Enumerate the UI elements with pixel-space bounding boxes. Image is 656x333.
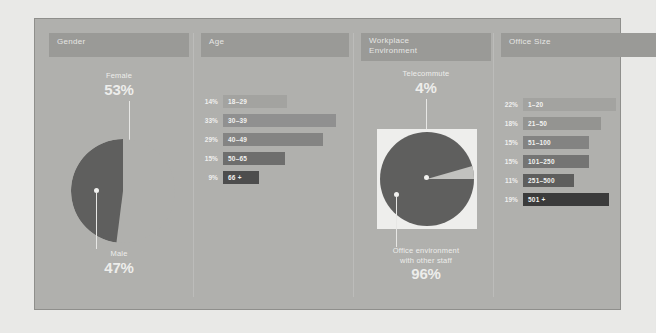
office-size-label-5: 501 + [528, 196, 545, 203]
table-row: 33% 30–39 [201, 114, 349, 127]
age-label-1: 30–39 [228, 117, 247, 124]
section-title-age: Age [209, 37, 349, 47]
section-workplace-environment: Workplace Environment Telecommute 4% [361, 33, 491, 299]
gender-male-value: 47% [49, 259, 189, 276]
age-bar-4: 66 + [223, 171, 259, 184]
gender-male-label: Male [49, 249, 189, 259]
section-header-gender: Gender [49, 33, 189, 57]
gender-male-leader-line [96, 192, 97, 249]
office-size-bar-5: 501 + [523, 193, 609, 206]
age-label-0: 18–29 [228, 98, 247, 105]
table-row: 18% 21–50 [501, 117, 656, 130]
section-header-workplace: Workplace Environment [361, 33, 491, 61]
gender-female-callout: Female 53% [49, 71, 189, 98]
age-pct-1: 33% [201, 117, 223, 124]
gender-female-value: 53% [49, 81, 189, 98]
office-size-bar-0: 1–20 [523, 98, 616, 111]
office-size-pct-4: 11% [501, 177, 523, 184]
section-header-age: Age [201, 33, 349, 57]
gender-pie-svg [71, 139, 175, 243]
age-label-2: 40–49 [228, 136, 247, 143]
office-size-bar-2: 51–100 [523, 136, 589, 149]
section-title-gender: Gender [57, 37, 189, 47]
office-size-label-4: 251–500 [528, 177, 555, 184]
age-bar-3: 50–65 [223, 152, 285, 165]
table-row: 22% 1–20 [501, 98, 656, 111]
section-title-office-size: Office Size [509, 37, 656, 47]
office-size-label-3: 101–250 [528, 158, 555, 165]
age-label-3: 50–65 [228, 155, 247, 162]
office-size-pct-3: 15% [501, 158, 523, 165]
section-header-office-size: Office Size [501, 33, 656, 57]
age-bar-0: 18–29 [223, 95, 287, 108]
office-size-pct-0: 22% [501, 101, 523, 108]
telecommute-leader-dot [424, 175, 429, 180]
office-environment-callout: Office environment with other staff 96% [361, 246, 491, 282]
office-size-pct-1: 18% [501, 120, 523, 127]
table-row: 9% 66 + [201, 171, 349, 184]
column-divider-1 [193, 33, 194, 297]
workplace-chart: Telecommute 4% Office environment with o… [361, 61, 491, 297]
table-row: 15% 50–65 [201, 152, 349, 165]
age-bar-chart: 14% 18–29 33% 30–39 29% 40–49 [201, 95, 349, 184]
table-row: 15% 51–100 [501, 136, 656, 149]
age-label-4: 66 + [228, 174, 242, 181]
office-size-bar-1: 21–50 [523, 117, 601, 130]
office-size-pct-5: 19% [501, 196, 523, 203]
gender-female-label: Female [49, 71, 189, 81]
section-office-size: Office Size 22% 1–20 18% 21–50 15% [501, 33, 656, 299]
office-size-label-0: 1–20 [528, 101, 543, 108]
office-size-bar-chart: 22% 1–20 18% 21–50 15% 51–100 [501, 98, 656, 206]
age-pct-3: 15% [201, 155, 223, 162]
section-age: Age 14% 18–29 33% 30–39 29% [201, 33, 349, 299]
table-row: 14% 18–29 [201, 95, 349, 108]
office-size-bar-3: 101–250 [523, 155, 589, 168]
section-gender: Gender Female 53% Ma [49, 33, 189, 299]
section-title-workplace: Workplace Environment [369, 36, 491, 55]
age-pct-0: 14% [201, 98, 223, 105]
column-divider-3 [493, 33, 494, 297]
telecommute-value: 4% [361, 79, 491, 96]
table-row: 29% 40–49 [201, 133, 349, 146]
gender-male-callout: Male 47% [49, 249, 189, 276]
infographic-panel: Gender Female 53% Ma [34, 18, 621, 310]
office-environment-value: 96% [361, 265, 491, 282]
telecommute-callout: Telecommute 4% [361, 69, 491, 96]
column-divider-2 [353, 33, 354, 297]
table-row: 11% 251–500 [501, 174, 656, 187]
office-size-bar-4: 251–500 [523, 174, 574, 187]
gender-chart: Female 53% Male 47% [49, 57, 189, 293]
office-size-label-1: 21–50 [528, 120, 547, 127]
office-leader-line [396, 196, 397, 247]
table-row: 15% 101–250 [501, 155, 656, 168]
age-pct-4: 9% [201, 174, 223, 181]
telecommute-label: Telecommute [361, 69, 491, 79]
office-size-label-2: 51–100 [528, 139, 551, 146]
age-bar-2: 40–49 [223, 133, 323, 146]
age-pct-2: 29% [201, 136, 223, 143]
office-environment-label: Office environment with other staff [361, 246, 491, 265]
age-bar-1: 30–39 [223, 114, 336, 127]
office-size-pct-2: 15% [501, 139, 523, 146]
table-row: 19% 501 + [501, 193, 656, 206]
